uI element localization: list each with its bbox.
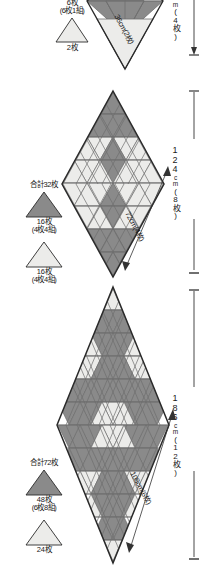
legend-light-swatch — [55, 16, 89, 43]
dim-unit: cm — [172, 0, 179, 7]
dimension-leader-large — [120, 407, 178, 557]
diagram-panel-small: 6枚 (6枚1組) 2枚 cm(4枚) — [0, 0, 206, 85]
dim-pieces: (4枚) — [171, 7, 180, 40]
diagram-panel-medium: 合計32枚 16枚 (4枚4組) 16枚 (4枚4組) — [0, 85, 206, 283]
legend-dark-swatch — [25, 190, 63, 218]
dimension-leader-medium — [118, 163, 172, 275]
dimension-line-medium — [186, 87, 202, 279]
dim-pieces: (8枚) — [171, 187, 180, 220]
dimension-line-large — [186, 285, 202, 565]
dimension-line-small — [186, 0, 202, 60]
diagram-panel-large: 合計72枚 48枚 (6枚8組) 24枚 — [0, 283, 206, 566]
dim-unit: cm — [172, 174, 179, 187]
dimension-height-small: cm(4枚) — [171, 0, 179, 44]
legend-light-swatch — [25, 240, 63, 268]
